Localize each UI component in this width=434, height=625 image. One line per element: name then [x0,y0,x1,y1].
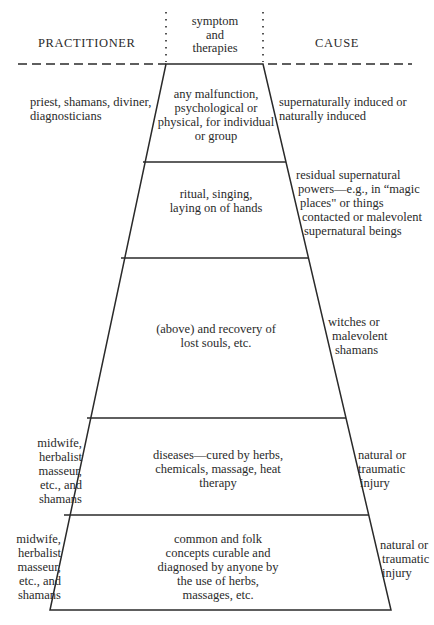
text-line: diagnosticians [30,109,151,123]
text-line: masseur, [10,464,82,478]
text-line: common and folk [80,532,356,546]
text-line: (above) and recovery of [120,322,312,336]
text-line: natural or [358,448,406,462]
text-line: shamans [10,492,82,506]
text-line: supernatural beings [296,224,422,238]
text-line: natural or [380,538,429,552]
text-line: malevolent [328,329,388,343]
text-line: the use of herbs, [80,574,356,588]
text-line: therapy [100,476,336,490]
text-line: injury [380,566,429,580]
text-line: midwife, [10,436,82,450]
level-5-cause: natural or traumatic injury [380,538,429,580]
level-4-practitioner: midwife, herbalist masseur, etc., and sh… [10,436,82,506]
text-line: psychological or [150,101,282,115]
text-line: contacted or malevolent [296,210,422,224]
text-line: diagnosed by anyone by [80,560,356,574]
text-line: places" or things [296,196,422,210]
text-line: ritual, singing, [140,187,292,201]
symptom-header-line: symptom [168,15,262,29]
text-line: or group [150,129,282,143]
text-line: herbalist [0,546,61,560]
text-line: concepts curable and [80,546,356,560]
level-4-symptom: diseases—cured by herbs, chemicals, mass… [100,448,336,490]
level-1-practitioner: priest, shamans, diviner, diagnosticians [30,95,151,123]
symptom-header-line: and [168,29,262,43]
text-line: massages, etc. [80,588,356,602]
text-line: witches or [328,315,388,329]
text-line: diseases—cured by herbs, [100,448,336,462]
level-2-symptom: ritual, singing, laying on of hands [140,187,292,215]
level-1-cause: supernaturally induced or naturally indu… [279,95,407,123]
text-line: supernaturally induced or [279,95,407,109]
text-line: shamans [0,588,61,602]
text-line: traumatic [380,552,429,566]
text-line: masseur, [0,560,61,574]
level-4-cause: natural or traumatic injury [358,448,406,490]
level-5-practitioner: midwife, herbalist masseur, etc., and sh… [0,532,61,602]
level-2-cause: residual supernatural powers—e.g., in “m… [296,168,422,238]
level-3-symptom: (above) and recovery of lost souls, etc. [120,322,312,350]
practitioner-header: PRACTITIONER [38,36,135,51]
level-5-symptom: common and folk concepts curable and dia… [80,532,356,602]
text-line: etc., and [0,574,61,588]
text-line: naturally induced [279,109,407,123]
symptom-header-line: therapies [168,42,262,56]
text-line: herbalist [10,450,82,464]
level-1-symptom: any malfunction, psychological or physic… [150,87,282,143]
text-line: shamans [328,343,388,357]
text-line: priest, shamans, diviner, [30,95,151,109]
text-line: injury [358,476,406,490]
text-line: residual supernatural [296,168,422,182]
text-line: midwife, [0,532,61,546]
text-line: laying on of hands [140,201,292,215]
text-line: any malfunction, [150,87,282,101]
text-line: etc., and [10,478,82,492]
cause-header: CAUSE [315,36,359,51]
text-line: physical, for individual [150,115,282,129]
text-line: powers—e.g., in “magic [296,182,422,196]
text-line: lost souls, etc. [120,336,312,350]
text-line: traumatic [358,462,406,476]
text-line: chemicals, massage, heat [100,462,336,476]
level-3-cause: witches or malevolent shamans [328,315,388,357]
symptom-header: symptom and therapies [168,15,262,56]
